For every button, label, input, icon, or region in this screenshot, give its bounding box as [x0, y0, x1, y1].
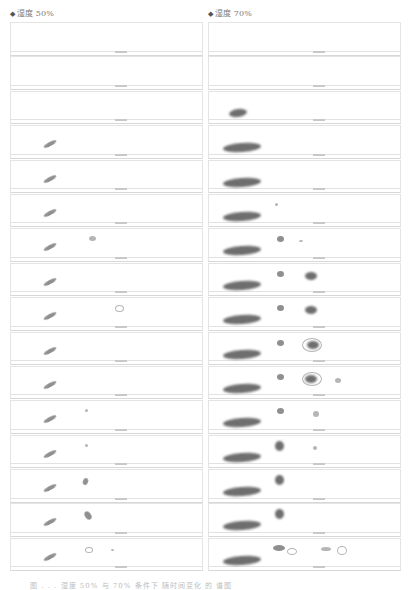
panel-tick: [115, 532, 127, 534]
blot-panel: [208, 125, 401, 159]
diamond-marker-icon: ◆: [10, 10, 16, 18]
panel-tick: [115, 222, 127, 224]
blot-spot: [43, 345, 57, 355]
blot-spot: [89, 236, 96, 241]
blot-spot: [299, 240, 303, 242]
blot-spot: [277, 340, 284, 346]
blot-panel: [10, 469, 203, 503]
panel-tick: [313, 566, 325, 568]
blot-spot: [223, 279, 262, 291]
panel-baseline: [209, 154, 400, 155]
blot-panel: [208, 400, 401, 434]
panel-baseline: [11, 463, 202, 464]
blot-panel: [10, 125, 203, 159]
blot-spot: [223, 417, 262, 429]
blot-spot: [229, 108, 248, 118]
panel-tick: [313, 498, 325, 500]
panel-baseline: [11, 429, 202, 430]
blot-panel: [10, 228, 203, 262]
blot-spot: [223, 211, 262, 223]
panel-baseline: [11, 257, 202, 258]
blot-ring: [337, 546, 347, 555]
blot-spot: [277, 305, 284, 311]
blot-panel: [10, 22, 203, 56]
column-label: 湿度 50%: [17, 9, 55, 18]
blot-panel: [10, 332, 203, 366]
panel-baseline: [11, 188, 202, 189]
blot-spot: [275, 441, 284, 451]
blot-spot: [43, 414, 57, 424]
panel-column-humidity-50: [10, 22, 203, 572]
panel-baseline: [209, 566, 400, 567]
panel-tick: [115, 291, 127, 293]
blot-spot: [43, 277, 57, 287]
panel-tick: [313, 326, 325, 328]
blot-ring: [115, 305, 124, 312]
blot-spot: [43, 449, 57, 459]
blot-panel: [10, 538, 203, 572]
column-label: 湿度 70%: [215, 9, 253, 18]
blot-spot: [277, 236, 284, 242]
panel-baseline: [11, 498, 202, 499]
blot-ring: [302, 338, 322, 352]
panel-baseline: [209, 360, 400, 361]
panel-tick: [115, 463, 127, 465]
panel-tick: [115, 326, 127, 328]
blot-spot: [85, 409, 88, 412]
panel-baseline: [209, 394, 400, 395]
blot-spot: [43, 380, 57, 390]
blot-spot: [277, 408, 284, 414]
blot-ring: [287, 548, 297, 555]
blot-spot: [223, 245, 262, 257]
blot-spot: [223, 314, 262, 326]
blot-spot: [83, 511, 93, 522]
panel-baseline: [209, 498, 400, 499]
blot-spot: [305, 306, 317, 314]
column-header-humidity-70: ◆湿度 70%: [208, 7, 252, 18]
blot-spot: [313, 446, 317, 450]
panel-tick: [115, 257, 127, 259]
blot-panel: [208, 435, 401, 469]
blot-panel: [10, 56, 203, 90]
blot-spot: [43, 139, 57, 149]
panel-tick: [115, 188, 127, 190]
panel-baseline: [11, 119, 202, 120]
blot-spot: [43, 552, 57, 562]
panel-tick: [313, 188, 325, 190]
panel-tick: [115, 394, 127, 396]
panel-baseline: [11, 291, 202, 292]
blot-spot: [82, 477, 89, 485]
blot-panel: [10, 435, 203, 469]
blot-spot: [275, 509, 284, 519]
panel-baseline: [11, 51, 202, 52]
blot-spot: [85, 444, 88, 447]
panel-baseline: [209, 429, 400, 430]
blot-panel: [10, 160, 203, 194]
panel-baseline: [209, 291, 400, 292]
blot-panel: [208, 366, 401, 400]
blot-spot: [321, 547, 331, 551]
panel-tick: [115, 429, 127, 431]
blot-spot: [223, 383, 262, 395]
panel-column-humidity-70: [208, 22, 401, 572]
blot-panel: [10, 400, 203, 434]
panel-tick: [115, 498, 127, 500]
panel-tick: [115, 360, 127, 362]
blot-spot: [223, 451, 262, 463]
blot-spot: [277, 374, 284, 380]
blot-panel: [208, 56, 401, 90]
panel-tick: [313, 257, 325, 259]
diamond-marker-icon: ◆: [208, 10, 214, 18]
blot-spot: [43, 517, 57, 527]
blot-panel: [10, 297, 203, 331]
panel-baseline: [11, 394, 202, 395]
column-header-humidity-50: ◆湿度 50%: [10, 7, 54, 18]
blot-panel: [208, 503, 401, 537]
blot-spot: [43, 311, 57, 321]
blot-panel: [208, 160, 401, 194]
panel-tick: [313, 119, 325, 121]
blot-panel: [10, 91, 203, 125]
panel-tick: [313, 360, 325, 362]
panel-tick: [313, 429, 325, 431]
panel-tick: [115, 154, 127, 156]
